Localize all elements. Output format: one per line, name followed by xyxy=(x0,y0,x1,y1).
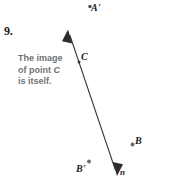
line-n xyxy=(62,29,123,177)
callout-line-3: is itself. xyxy=(18,76,52,86)
point-label-a-prime: A' xyxy=(91,2,100,13)
point-dot-b xyxy=(131,143,135,147)
callout-line-2-prefix: of point xyxy=(18,65,54,75)
line-n-arrowhead-top xyxy=(62,29,76,45)
point-dot-b-prime xyxy=(87,160,91,164)
point-label-c: C xyxy=(81,51,88,62)
callout-line-2-variable: C xyxy=(54,65,61,75)
callout-line-1: The image xyxy=(18,53,63,63)
line-label-n: n xyxy=(120,167,125,177)
geometry-figure: 9. The image of point C is itself. A' C … xyxy=(0,0,170,191)
point-label-b: B xyxy=(135,135,142,146)
exercise-number: 9. xyxy=(4,24,13,39)
line-n-shaft xyxy=(70,35,115,170)
callout-text: The image of point C is itself. xyxy=(18,53,74,88)
point-label-b-prime: B' xyxy=(76,163,85,174)
